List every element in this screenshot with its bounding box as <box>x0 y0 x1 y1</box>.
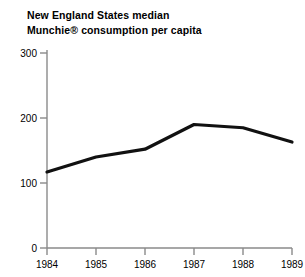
x-axis-ticks <box>47 248 292 255</box>
y-tick-label-200: 200 <box>20 113 37 124</box>
y-axis-tick-labels: 0 100 200 300 <box>20 48 37 254</box>
y-tick-label-0: 0 <box>31 243 37 254</box>
x-tick-label-1988: 1988 <box>232 259 255 270</box>
chart-figure: New England States median Munchie® consu… <box>0 0 305 277</box>
x-tick-label-1987: 1987 <box>183 259 206 270</box>
x-tick-label-1986: 1986 <box>134 259 157 270</box>
line-chart-plot: 0 100 200 300 1984 1985 1986 1987 1988 1… <box>0 0 305 277</box>
x-tick-label-1984: 1984 <box>36 259 59 270</box>
x-tick-label-1989: 1989 <box>281 259 304 270</box>
data-series-line <box>47 125 292 172</box>
y-tick-label-300: 300 <box>20 48 37 59</box>
y-axis-ticks <box>40 53 47 248</box>
x-tick-label-1985: 1985 <box>85 259 108 270</box>
x-axis-tick-labels: 1984 1985 1986 1987 1988 1989 <box>36 259 304 270</box>
y-tick-label-100: 100 <box>20 178 37 189</box>
